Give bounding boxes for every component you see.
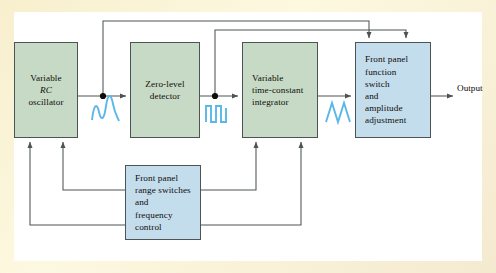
wire-range-to-osc-right	[63, 142, 125, 190]
block-line: Front panel	[135, 172, 178, 184]
block-line: detector	[150, 90, 180, 102]
square-tap-junction	[212, 93, 218, 99]
triangle-waveform-glyph	[326, 103, 350, 122]
block-line: range switches	[135, 184, 191, 196]
block-line: time-constant	[252, 84, 303, 96]
block-line: and	[365, 90, 379, 102]
block-front-panel-range-switches: Front panel range switches and frequency…	[125, 165, 201, 240]
block-line: function	[365, 66, 396, 78]
square-waveform-glyph	[206, 106, 226, 122]
wire-range-to-integrator-right	[201, 142, 301, 225]
wire-range-to-osc-left	[30, 142, 125, 225]
block-line: Variable	[252, 72, 283, 84]
wire-range-to-integrator-left	[201, 142, 256, 190]
block-line: adjustment	[365, 114, 406, 126]
block-line: frequency	[135, 209, 173, 221]
block-line: RC	[40, 84, 52, 96]
output-label: Output	[457, 83, 483, 93]
sine-waveform-glyph	[92, 96, 119, 121]
block-line: switch	[365, 78, 390, 90]
figure-frame: Variable RC oscillator Zero-level detect…	[0, 0, 496, 273]
block-zero-level-detector: Zero-level detector	[130, 42, 200, 138]
block-line: Variable	[30, 72, 61, 84]
block-line: oscillator	[28, 96, 63, 108]
block-line: Zero-level	[145, 78, 184, 90]
block-line: Front panel	[365, 53, 408, 65]
block-line: amplitude	[365, 102, 403, 114]
block-variable-time-constant-integrator: Variable time-constant integrator	[242, 42, 318, 138]
sine-tap-junction	[100, 93, 106, 99]
block-front-panel-function-switch: Front panel function switch and amplitud…	[355, 42, 431, 138]
block-variable-rc-oscillator: Variable RC oscillator	[14, 42, 78, 138]
block-line: control	[135, 221, 162, 233]
block-line: and	[135, 196, 149, 208]
block-line: integrator	[252, 96, 289, 108]
